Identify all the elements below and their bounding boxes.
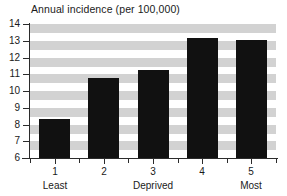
x-axis-tick: [55, 159, 56, 164]
x-axis-boundary-tick: [227, 159, 228, 163]
y-axis-tick-label: 8: [0, 120, 20, 130]
bar: [88, 78, 119, 158]
y-axis-tick: [23, 58, 29, 59]
x-axis-group-label: Most: [216, 180, 286, 191]
x-axis-tick-label: 2: [89, 166, 119, 177]
y-axis-tick: [23, 108, 29, 109]
y-axis-tick: [23, 158, 29, 159]
x-axis-boundary-tick: [30, 159, 31, 163]
y-axis-tick: [23, 141, 29, 142]
x-axis-group-label: Least: [20, 180, 90, 191]
y-axis-tick: [23, 74, 29, 75]
x-axis-tick-label: 1: [40, 166, 70, 177]
y-axis-tick: [23, 125, 29, 126]
y-axis-tick: [23, 24, 29, 25]
y-axis-tick-label: 7: [0, 136, 20, 146]
y-axis-tick-label: 14: [0, 19, 20, 29]
y-axis-tick-label: 9: [0, 103, 20, 113]
x-axis-tick: [104, 159, 105, 164]
y-axis-tick-label: 12: [0, 53, 20, 63]
y-axis-line: [29, 23, 30, 159]
bar: [39, 119, 70, 158]
x-axis-group-label: Deprived: [118, 180, 188, 191]
x-axis-tick: [202, 159, 203, 164]
x-axis-boundary-tick: [128, 159, 129, 163]
chart-title: Annual incidence (per 100,000): [31, 3, 180, 16]
y-axis-tick-label: 11: [0, 69, 20, 79]
bar: [236, 40, 267, 158]
bar-chart-figure: Annual incidence (per 100,000) 678910111…: [0, 0, 287, 196]
x-axis-boundary-tick: [79, 159, 80, 163]
bar: [187, 38, 218, 158]
y-axis-tick: [23, 91, 29, 92]
y-axis-tick-label: 10: [0, 86, 20, 96]
x-axis-tick: [153, 159, 154, 164]
x-axis-boundary-tick: [276, 159, 277, 163]
y-axis-tick-label: 13: [0, 36, 20, 46]
x-axis-boundary-tick: [178, 159, 179, 163]
x-axis-tick: [251, 159, 252, 164]
bar-series-layer: [30, 24, 276, 158]
bar: [138, 70, 169, 158]
x-axis-tick-label: 3: [138, 166, 168, 177]
plot-area: [30, 24, 276, 158]
x-axis-tick-label: 4: [187, 166, 217, 177]
y-axis-tick-label: 6: [0, 153, 20, 163]
x-axis-tick-label: 5: [236, 166, 266, 177]
y-axis-tick: [23, 41, 29, 42]
x-axis-line: [22, 158, 278, 159]
